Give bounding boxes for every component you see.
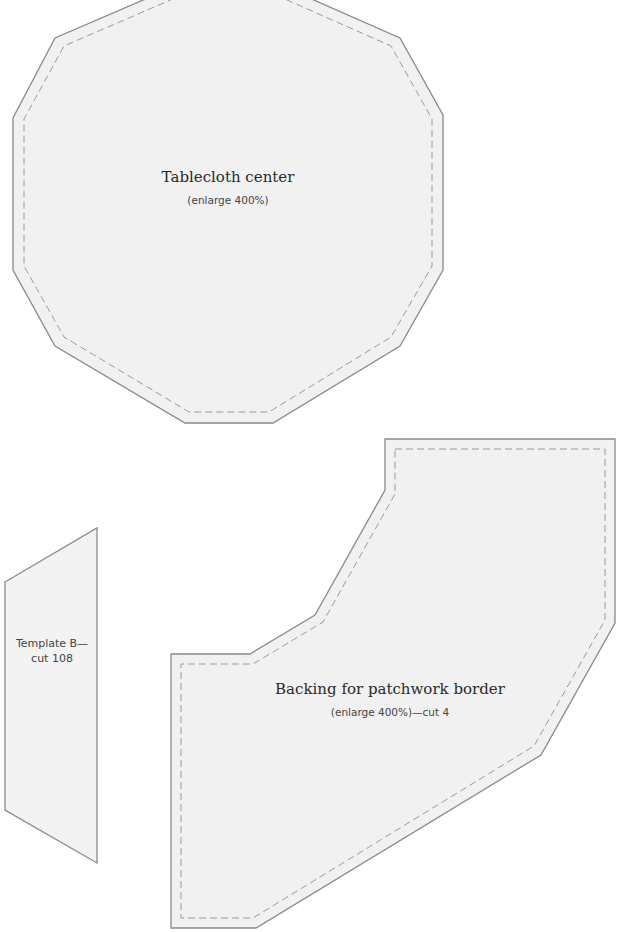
template-b-outline	[5, 528, 97, 863]
piece-subtitle: (enlarge 400%)	[128, 194, 328, 206]
piece-title: Backing for patchwork border	[260, 680, 520, 698]
piece-title: Template B—	[6, 637, 98, 650]
patchwork-border-backing-label: Backing for patchwork border (enlarge 40…	[260, 680, 520, 718]
piece-subtitle: (enlarge 400%)—cut 4	[260, 706, 520, 718]
template-b-label: Template B— cut 108	[6, 637, 98, 665]
tablecloth-center-outline	[13, 0, 443, 423]
piece-subtitle: cut 108	[6, 652, 98, 665]
pattern-sheet	[0, 0, 630, 932]
tablecloth-center-label: Tablecloth center (enlarge 400%)	[128, 168, 328, 206]
piece-title: Tablecloth center	[128, 168, 328, 186]
